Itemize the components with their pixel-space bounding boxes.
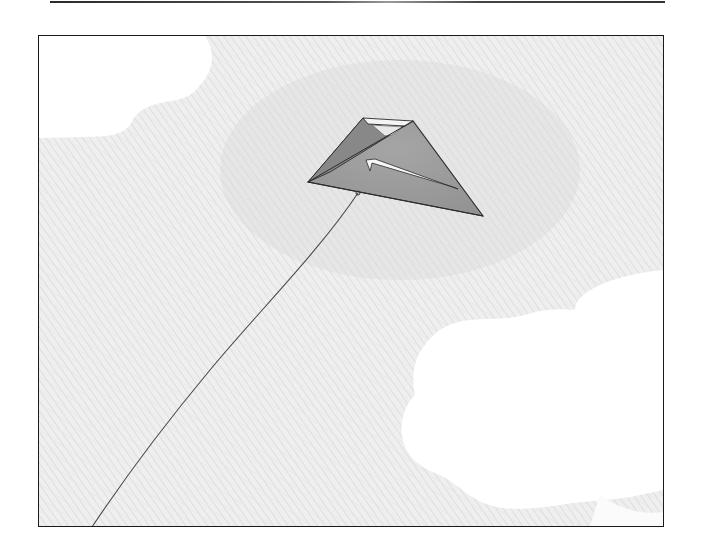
kite-illustration	[0, 0, 704, 555]
